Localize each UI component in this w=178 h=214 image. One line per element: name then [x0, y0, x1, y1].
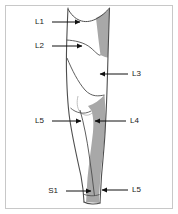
label-L4: L4 [130, 116, 139, 125]
figure-border: L1 L2 L3 L4 L5 [0, 0, 178, 214]
label-L3: L3 [132, 69, 141, 78]
label-L2: L2 [35, 41, 44, 50]
dermatome-figure: L1 L2 L3 L4 L5 [0, 0, 178, 214]
label-L5-mid: L5 [35, 116, 44, 125]
dermatome-illustration: L1 L2 L3 L4 L5 [0, 0, 178, 214]
label-L5-ankle: L5 [132, 185, 141, 194]
label-L1: L1 [35, 17, 44, 26]
label-S1: S1 [48, 186, 58, 195]
